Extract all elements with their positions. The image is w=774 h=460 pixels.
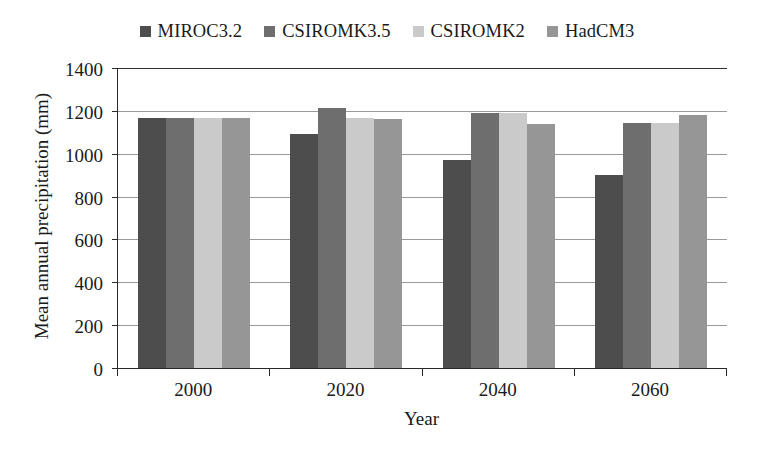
bar-groups xyxy=(118,68,727,368)
x-axis: 2000202020402060 xyxy=(117,368,726,408)
bar xyxy=(166,118,194,368)
legend-label: HadCM3 xyxy=(565,22,634,41)
x-axis-tick xyxy=(726,368,727,376)
plot-area: 0200400600800100012001400 xyxy=(117,68,727,369)
x-axis-tick-label: 2000 xyxy=(117,380,269,399)
bar xyxy=(623,123,651,368)
legend-swatch-icon xyxy=(547,26,558,37)
y-axis-title: Mean annual precipitation (mm) xyxy=(31,56,53,376)
bar-group-2000 xyxy=(118,68,270,368)
x-axis-labels: 2000202020402060 xyxy=(117,380,726,399)
chart-legend: MIROC3.2 CSIROMK3.5 CSIROMK2 HadCM3 xyxy=(0,22,774,41)
x-axis-tick-label: 2040 xyxy=(422,380,574,399)
legend-item-csiromk2: CSIROMK2 xyxy=(413,22,525,41)
y-axis-tick-label: 600 xyxy=(75,231,104,250)
y-axis-tick-label: 400 xyxy=(75,274,104,293)
x-axis-tick-label: 2060 xyxy=(574,380,726,399)
bar xyxy=(318,108,346,368)
y-axis-tick-label: 0 xyxy=(94,360,104,379)
x-axis-title: Year xyxy=(117,408,726,430)
bar xyxy=(527,124,555,368)
bar xyxy=(374,119,402,368)
y-axis-tick-label: 1200 xyxy=(65,102,103,121)
precipitation-bar-chart: MIROC3.2 CSIROMK3.5 CSIROMK2 HadCM3 Mean… xyxy=(0,0,774,460)
legend-item-csiromk35: CSIROMK3.5 xyxy=(264,22,390,41)
bar xyxy=(194,118,222,368)
legend-swatch-icon xyxy=(413,26,424,37)
legend-swatch-icon xyxy=(140,26,151,37)
legend-swatch-icon xyxy=(264,26,275,37)
bar-group-2040 xyxy=(423,68,575,368)
bar-group-2060 xyxy=(575,68,727,368)
bar xyxy=(679,115,707,368)
legend-label: CSIROMK3.5 xyxy=(282,22,390,41)
x-axis-tick-label: 2020 xyxy=(269,380,421,399)
x-axis-tick xyxy=(269,368,270,376)
bar xyxy=(595,175,623,368)
legend-item-hadcm3: HadCM3 xyxy=(547,22,634,41)
y-axis-tick-label: 1400 xyxy=(65,60,103,79)
y-axis-tick-label: 200 xyxy=(75,317,104,336)
bar xyxy=(346,118,374,368)
bar xyxy=(471,113,499,368)
x-axis-tick xyxy=(117,368,118,376)
x-axis-tick xyxy=(574,368,575,376)
y-axis-tick-label: 800 xyxy=(75,188,104,207)
bar xyxy=(443,160,471,368)
bar xyxy=(651,123,679,368)
bar xyxy=(290,134,318,368)
x-axis-tick xyxy=(422,368,423,376)
legend-label: CSIROMK2 xyxy=(431,22,525,41)
bar-group-2020 xyxy=(270,68,422,368)
y-axis-tick-label: 1000 xyxy=(65,145,103,164)
legend-label: MIROC3.2 xyxy=(158,22,243,41)
bar xyxy=(138,118,166,368)
bar xyxy=(499,113,527,368)
legend-item-miroc32: MIROC3.2 xyxy=(140,22,243,41)
bar xyxy=(222,118,250,368)
